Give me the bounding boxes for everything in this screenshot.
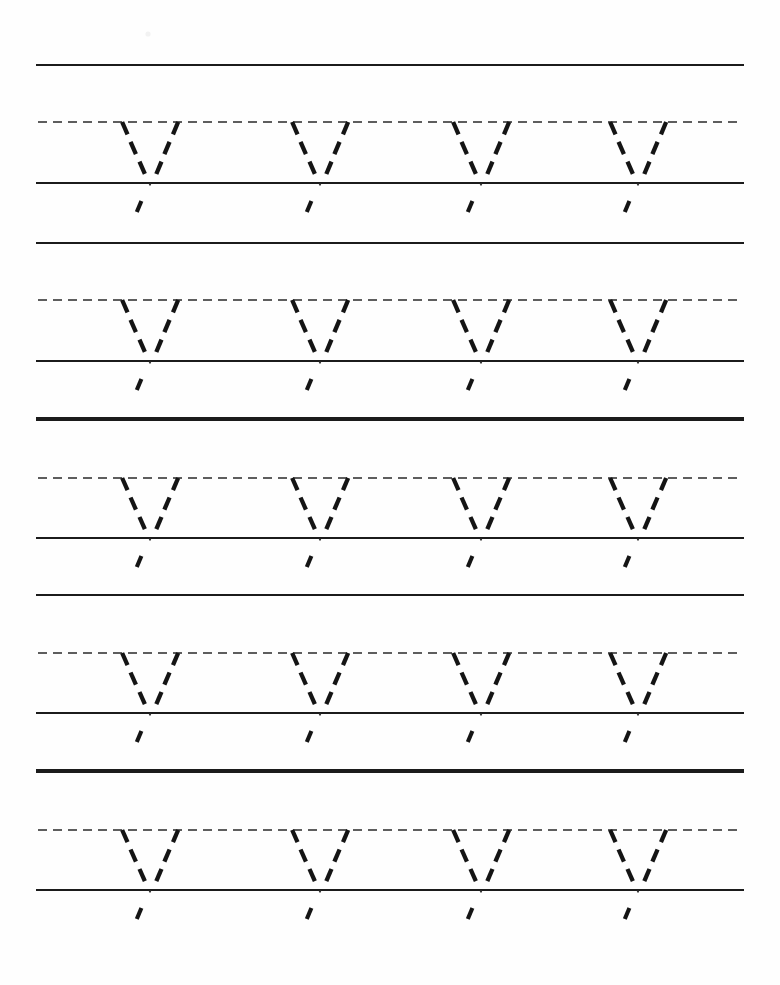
trace-letter-v[interactable] bbox=[292, 478, 348, 541]
trace-letter-v[interactable] bbox=[122, 300, 178, 364]
trace-letter-v[interactable] bbox=[292, 122, 348, 186]
v-left-diagonal-stroke bbox=[292, 830, 315, 881]
v-right-diagonal-stroke bbox=[156, 653, 178, 704]
v-right-diagonal-stroke bbox=[644, 653, 666, 704]
v-right-diagonal-stroke bbox=[487, 830, 509, 881]
v-left-diagonal-stroke bbox=[122, 300, 145, 352]
v-left-diagonal-stroke bbox=[610, 122, 633, 174]
start-stroke-tick bbox=[137, 556, 142, 567]
v-right-diagonal-stroke bbox=[326, 122, 348, 174]
trace-letter-v[interactable] bbox=[122, 653, 178, 716]
trace-letter-v[interactable] bbox=[292, 653, 348, 716]
start-stroke-tick bbox=[137, 731, 142, 742]
start-stroke-tick bbox=[307, 908, 312, 919]
v-left-diagonal-stroke bbox=[610, 478, 633, 529]
v-apex-dot bbox=[149, 183, 151, 185]
v-right-diagonal-stroke bbox=[644, 300, 666, 352]
trace-letter-v[interactable] bbox=[610, 478, 666, 541]
v-apex-dot bbox=[319, 713, 321, 715]
start-stroke-tick bbox=[307, 556, 312, 567]
practice-row-3 bbox=[36, 420, 744, 595]
start-stroke-tick bbox=[468, 908, 473, 919]
v-right-diagonal-stroke bbox=[487, 653, 509, 704]
trace-letter-v[interactable] bbox=[453, 478, 509, 541]
practice-row-4 bbox=[36, 595, 744, 770]
v-apex-dot bbox=[149, 890, 151, 892]
v-apex-dot bbox=[319, 890, 321, 892]
start-stroke-tick bbox=[137, 379, 142, 390]
start-stroke-tick bbox=[625, 731, 630, 742]
v-apex-dot bbox=[637, 890, 639, 892]
start-stroke-tick bbox=[137, 908, 142, 919]
v-right-diagonal-stroke bbox=[487, 300, 509, 352]
v-apex-dot bbox=[637, 538, 639, 540]
v-right-diagonal-stroke bbox=[326, 830, 348, 881]
v-left-diagonal-stroke bbox=[453, 122, 476, 174]
trace-letter-v[interactable] bbox=[453, 830, 509, 893]
v-right-diagonal-stroke bbox=[156, 300, 178, 352]
scan-speck bbox=[145, 31, 150, 36]
start-stroke-tick bbox=[307, 201, 312, 212]
v-apex-dot bbox=[149, 713, 151, 715]
v-right-diagonal-stroke bbox=[644, 122, 666, 174]
trace-letter-v[interactable] bbox=[292, 830, 348, 893]
trace-letter-v[interactable] bbox=[610, 300, 666, 364]
v-left-diagonal-stroke bbox=[292, 300, 315, 352]
trace-letter-v[interactable] bbox=[453, 653, 509, 716]
trace-letter-v[interactable] bbox=[122, 830, 178, 893]
v-right-diagonal-stroke bbox=[156, 830, 178, 881]
v-apex-dot bbox=[480, 361, 482, 363]
trace-letter-v[interactable] bbox=[610, 830, 666, 893]
start-stroke-tick bbox=[468, 201, 473, 212]
v-left-diagonal-stroke bbox=[122, 478, 145, 529]
trace-letter-v[interactable] bbox=[610, 653, 666, 716]
v-left-diagonal-stroke bbox=[453, 478, 476, 529]
v-right-diagonal-stroke bbox=[487, 122, 509, 174]
practice-row-5 bbox=[36, 772, 744, 919]
v-apex-dot bbox=[149, 538, 151, 540]
v-apex-dot bbox=[637, 361, 639, 363]
v-left-diagonal-stroke bbox=[610, 653, 633, 704]
v-right-diagonal-stroke bbox=[326, 300, 348, 352]
v-apex-dot bbox=[637, 713, 639, 715]
trace-letter-v[interactable] bbox=[122, 122, 178, 186]
v-apex-dot bbox=[319, 538, 321, 540]
start-stroke-tick bbox=[307, 379, 312, 390]
v-apex-dot bbox=[480, 890, 482, 892]
trace-letter-v[interactable] bbox=[453, 122, 509, 186]
trace-letter-v[interactable] bbox=[453, 300, 509, 364]
trace-letter-v[interactable] bbox=[292, 300, 348, 364]
v-apex-dot bbox=[319, 183, 321, 185]
v-left-diagonal-stroke bbox=[292, 478, 315, 529]
trace-letter-v[interactable] bbox=[610, 122, 666, 186]
start-stroke-tick bbox=[625, 908, 630, 919]
v-left-diagonal-stroke bbox=[122, 653, 145, 704]
v-apex-dot bbox=[319, 361, 321, 363]
v-left-diagonal-stroke bbox=[292, 122, 315, 174]
v-right-diagonal-stroke bbox=[487, 478, 509, 529]
v-right-diagonal-stroke bbox=[156, 478, 178, 529]
v-left-diagonal-stroke bbox=[453, 300, 476, 352]
v-apex-dot bbox=[149, 361, 151, 363]
v-left-diagonal-stroke bbox=[453, 653, 476, 704]
practice-row-1 bbox=[36, 65, 744, 243]
v-left-diagonal-stroke bbox=[453, 830, 476, 881]
trace-letter-v[interactable] bbox=[122, 478, 178, 541]
v-apex-dot bbox=[637, 183, 639, 185]
v-right-diagonal-stroke bbox=[156, 122, 178, 174]
v-apex-dot bbox=[480, 183, 482, 185]
v-right-diagonal-stroke bbox=[326, 653, 348, 704]
start-stroke-tick bbox=[625, 556, 630, 567]
start-stroke-tick bbox=[625, 379, 630, 390]
worksheet-canvas bbox=[0, 0, 780, 985]
v-apex-dot bbox=[480, 538, 482, 540]
v-left-diagonal-stroke bbox=[610, 300, 633, 352]
v-right-diagonal-stroke bbox=[644, 830, 666, 881]
v-apex-dot bbox=[480, 713, 482, 715]
v-right-diagonal-stroke bbox=[326, 478, 348, 529]
start-stroke-tick bbox=[468, 731, 473, 742]
start-stroke-tick bbox=[468, 379, 473, 390]
v-left-diagonal-stroke bbox=[292, 653, 315, 704]
practice-row-2 bbox=[36, 243, 744, 418]
start-stroke-tick bbox=[468, 556, 473, 567]
